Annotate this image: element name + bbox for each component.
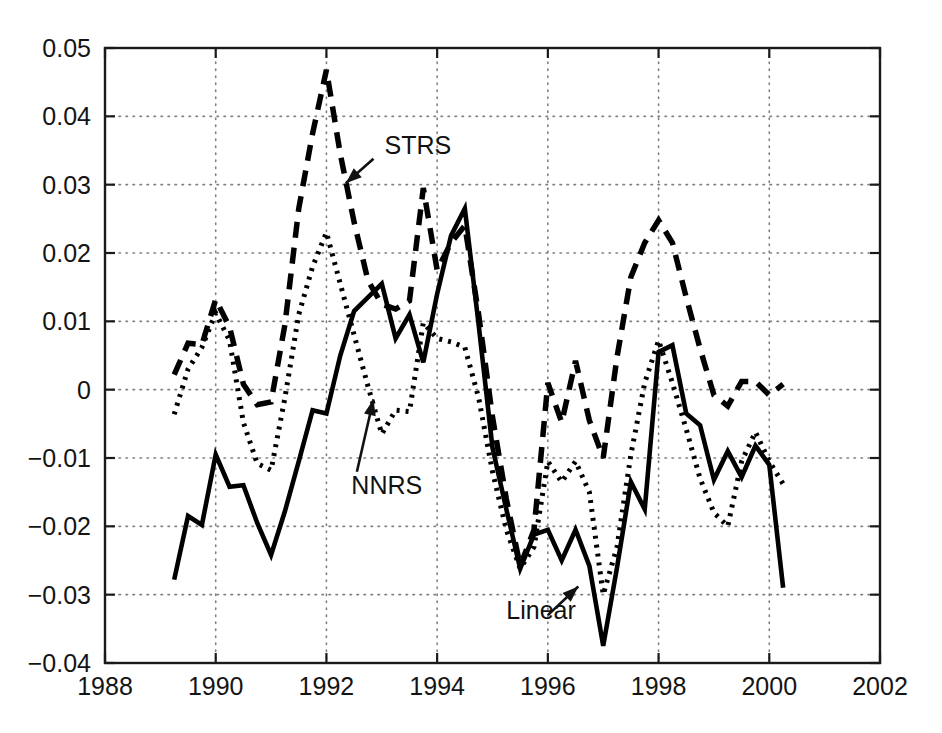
y-tick-label: −0.01 — [28, 444, 91, 472]
y-tick-label: 0.02 — [42, 239, 91, 267]
axis-ticks — [105, 48, 880, 663]
x-tick-label: 1992 — [299, 672, 355, 700]
y-tick-label: 0.01 — [42, 307, 91, 335]
y-tick-label: 0.05 — [42, 34, 91, 62]
chart-annotations: STRSNNRSLinear — [346, 131, 579, 624]
chart-figure: 19881990199219941996199820002002 0.050.0… — [0, 0, 942, 733]
x-tick-label: 1994 — [409, 672, 465, 700]
y-tick-label: 0.04 — [42, 102, 91, 130]
line-chart-svg: 19881990199219941996199820002002 0.050.0… — [0, 0, 942, 733]
annotation-label-strs: STRS — [385, 131, 452, 159]
x-tick-label: 2002 — [852, 672, 908, 700]
y-tick-labels: 0.050.040.030.020.010−0.01−0.02−0.03−0.0… — [28, 34, 91, 677]
y-tick-label: −0.04 — [28, 649, 91, 677]
plot-frame — [105, 48, 880, 663]
x-tick-label: 1998 — [631, 672, 687, 700]
grid-lines — [105, 48, 880, 663]
x-tick-labels: 19881990199219941996199820002002 — [77, 672, 908, 700]
series-line-linear — [174, 209, 783, 646]
y-tick-label: 0 — [77, 376, 91, 404]
y-tick-label: −0.03 — [28, 581, 91, 609]
x-tick-label: 1996 — [520, 672, 576, 700]
x-tick-label: 1990 — [188, 672, 244, 700]
annotation-label-nnrs: NNRS — [351, 471, 422, 499]
y-tick-label: 0.03 — [42, 171, 91, 199]
data-series — [174, 70, 783, 646]
y-tick-label: −0.02 — [28, 512, 91, 540]
x-tick-label: 2000 — [741, 672, 797, 700]
